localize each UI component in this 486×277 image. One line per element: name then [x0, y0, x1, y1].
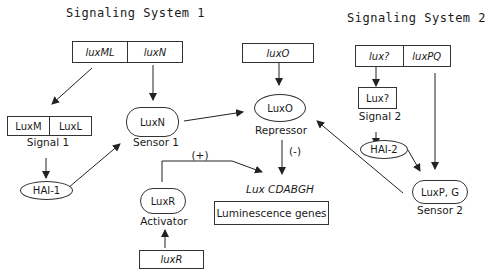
label-lux-operon: Lux CDABGH — [240, 183, 320, 195]
label-luminescence-genes: Luminescence genes — [215, 202, 328, 224]
label-signal-1: Signal 1 — [18, 136, 78, 148]
label-positive-regulation: (+) — [190, 149, 210, 161]
gene-lux-unknown: lux? — [356, 46, 403, 66]
gene-box-lux-unknown-luxPQ: lux? luxPQ — [355, 45, 451, 67]
title-signaling-system-2: Signaling System 2 — [347, 11, 486, 25]
protein-luxM: LuxM — [8, 117, 49, 135]
gene-box-luxO: luxO — [242, 43, 314, 63]
luminescence-genes-box: Luminescence genes — [214, 201, 329, 225]
protein-luxP-G: LuxP, G — [412, 180, 468, 204]
gene-box-luxR: luxR — [139, 250, 204, 269]
protein-luxR: LuxR — [140, 188, 186, 214]
protein-luxO: LuxO — [254, 94, 306, 122]
protein-luxL: LuxL — [49, 117, 91, 135]
label-signal-2: Signal 2 — [350, 110, 410, 122]
gene-luxR: luxR — [140, 251, 203, 268]
label-negative-regulation: (-) — [285, 145, 305, 157]
label-sensor-1: Sensor 1 — [128, 136, 184, 148]
label-activator: Activator — [135, 215, 193, 227]
gene-luxPQ: luxPQ — [403, 46, 451, 66]
protein-luxN: LuxN — [126, 107, 179, 137]
molecule-hai-1: HAI-1 — [20, 181, 73, 200]
gene-box-luxML-luxN: luxML luxN — [72, 41, 183, 63]
protein-lux-unknown: Lux? — [359, 88, 396, 108]
molecule-hai-2: HAI-2 — [360, 140, 408, 159]
gene-luxN: luxN — [127, 42, 182, 62]
title-signaling-system-1: Signaling System 1 — [66, 6, 205, 20]
gene-luxO: luxO — [243, 44, 313, 62]
protein-box-lux-unknown: Lux? — [358, 87, 397, 109]
protein-box-luxM-luxL: LuxM LuxL — [7, 116, 92, 136]
label-repressor: Repressor — [250, 124, 312, 136]
label-sensor-2: Sensor 2 — [412, 204, 468, 216]
gene-luxML: luxML — [73, 42, 127, 62]
